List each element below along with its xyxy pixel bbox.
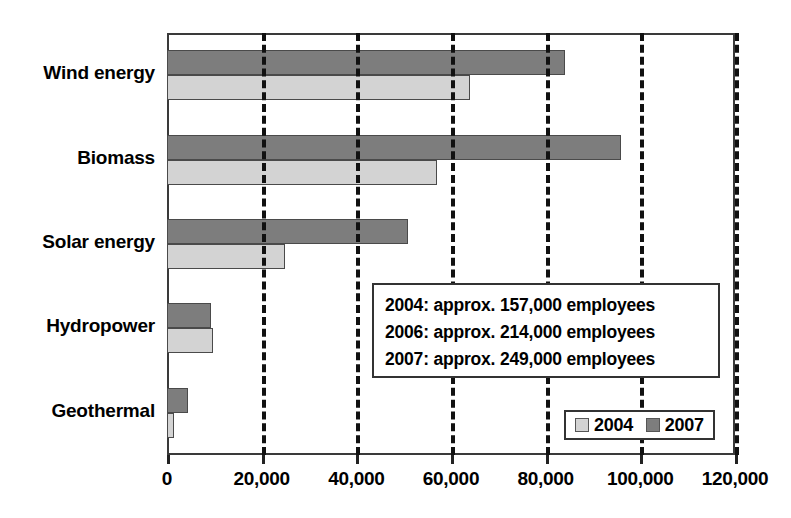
bar-hydropower-2007 (167, 303, 211, 328)
x-tick-100000 (640, 455, 643, 464)
x-tick-80000 (546, 455, 549, 464)
bar-geothermal-2004 (167, 413, 174, 438)
bar-biomass-2007 (167, 135, 621, 160)
category-label-text: Wind energy (43, 62, 155, 83)
x-tick-label-120000: 120,000 (702, 468, 769, 490)
legend: 2004 2007 (564, 410, 715, 440)
x-tick-40000 (356, 455, 359, 464)
bar-wind-energy-2007 (167, 50, 565, 75)
annotation-line-1: 2004: approx. 157,000 employees (385, 292, 718, 319)
x-tick-label-60000: 60,000 (423, 468, 479, 490)
category-label-wind-energy: Wind energy (0, 75, 155, 97)
gridline-80000 (546, 33, 550, 455)
x-tick-20000 (262, 455, 265, 464)
legend-item-2004: 2004 (575, 415, 633, 436)
x-tick-0 (167, 455, 170, 464)
annotation-line-3: 2007: approx. 249,000 employees (385, 346, 718, 373)
category-label-geothermal: Geothermal (0, 413, 155, 435)
x-tick-label-80000: 80,000 (517, 468, 573, 490)
x-tick-label-0: 0 (162, 468, 172, 490)
gridline-120000 (735, 33, 739, 455)
category-label-text: Geothermal (51, 400, 155, 421)
gridline-20000 (262, 33, 266, 455)
x-tick-label-40000: 40,000 (328, 468, 384, 490)
category-label-biomass: Biomass (0, 160, 155, 182)
legend-swatch-2007-icon (646, 418, 660, 432)
x-tick-label-100000: 100,000 (607, 468, 674, 490)
legend-item-2007: 2007 (646, 415, 704, 436)
annotation-line-2: 2006: approx. 214,000 employees (385, 319, 718, 346)
gridline-100000 (640, 33, 644, 455)
legend-label-2007: 2007 (665, 415, 704, 436)
category-label-text: Solar energy (42, 231, 155, 252)
bar-wind-energy-2004 (167, 75, 470, 100)
category-label-text: Biomass (77, 147, 155, 168)
x-tick-60000 (451, 455, 454, 464)
legend-swatch-2004-icon (575, 418, 589, 432)
gridline-60000 (451, 33, 455, 455)
bar-solar-energy-2007 (167, 219, 408, 244)
annotation-box: 2004: approx. 157,000 employees 2006: ap… (372, 283, 720, 378)
x-tick-label-20000: 20,000 (233, 468, 289, 490)
x-tick-120000 (735, 455, 738, 464)
category-label-solar-energy: Solar energy (0, 244, 155, 266)
bar-geothermal-2007 (167, 388, 188, 413)
category-label-text: Hydropower (46, 315, 155, 336)
bar-chart: Wind energyBiomassSolar energyHydropower… (0, 0, 791, 518)
bar-solar-energy-2004 (167, 244, 285, 269)
bar-biomass-2004 (167, 160, 437, 185)
legend-label-2004: 2004 (594, 415, 633, 436)
bar-hydropower-2004 (167, 328, 213, 353)
gridline-40000 (356, 33, 360, 455)
category-label-hydropower: Hydropower (0, 328, 155, 350)
